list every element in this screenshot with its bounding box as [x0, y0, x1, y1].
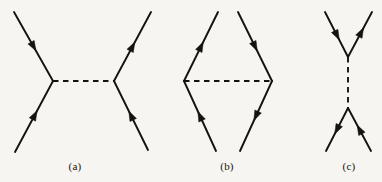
vertex-a-right-vertex [113, 80, 115, 82]
fermion-arrowhead-c-upper-right-leg [356, 28, 364, 39]
vertex-c-bottom-vertex [347, 107, 349, 109]
panel-c-diagram [325, 12, 372, 151]
fermion-arrowhead-c-upper-left-leg [331, 29, 339, 40]
panel-label-a: (a) [55, 160, 95, 172]
fermion-arrowhead-b-lower-right-leg [254, 110, 261, 121]
fermion-arrowhead-a-lower-left-leg [29, 111, 37, 122]
fermion-arrowhead-c-lower-left-leg [335, 123, 343, 134]
vertex-a-left-vertex [52, 80, 54, 82]
panel-label-c: (c) [329, 160, 369, 172]
vertex-b-left-vertex [183, 80, 185, 82]
vertex-b-right-vertex [271, 80, 273, 82]
fermion-arrowhead-a-upper-right-leg [127, 42, 135, 53]
fermion-arrowhead-b-upper-left-leg [196, 42, 204, 53]
fermion-arrowhead-a-upper-left-leg [28, 40, 36, 50]
feynman-diagram-figure: (a) (b) (c) [0, 0, 382, 182]
vertex-c-top-vertex [347, 56, 349, 58]
panel-a-diagram [14, 12, 151, 152]
panel-b-diagram [183, 12, 273, 151]
fermion-arrowhead-c-lower-right-leg [357, 125, 365, 136]
fermion-arrowhead-b-upper-right-leg [250, 40, 258, 51]
fermion-arrowhead-a-lower-right-leg [129, 111, 137, 122]
panel-label-b: (b) [207, 160, 247, 172]
fermion-arrowhead-b-lower-left-leg [198, 111, 205, 122]
diagram-canvas [0, 0, 382, 182]
